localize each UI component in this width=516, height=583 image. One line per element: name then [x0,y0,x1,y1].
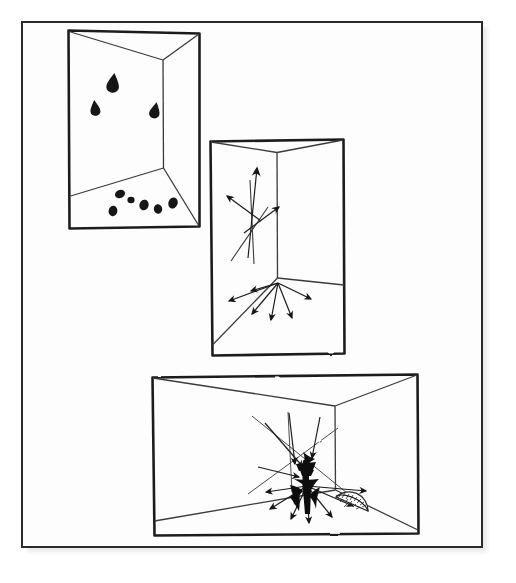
mark-blob [127,197,134,203]
hand-drawn-diagram-canvas [0,0,516,583]
outer-page-frame [22,22,482,547]
figure-root: A scanned hand-drawn illustration showin… [0,0,516,583]
